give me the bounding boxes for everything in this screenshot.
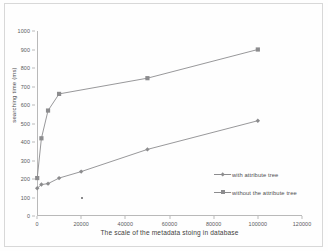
- y-tick-label: 900: [21, 47, 30, 53]
- y-tick-mark: [32, 142, 35, 143]
- y-tick-mark: [32, 123, 35, 124]
- y-tick-label: 200: [21, 176, 30, 182]
- y-tick-label: 100: [21, 195, 30, 201]
- y-tick-mark: [32, 160, 35, 161]
- data-point-diamond: [145, 147, 149, 151]
- y-tick-label: 600: [21, 102, 30, 108]
- data-point-square: [46, 108, 50, 112]
- scan-artifact-speck: [81, 197, 83, 199]
- y-tick-mark: [32, 179, 35, 180]
- legend-marker-diamond-icon: [214, 171, 231, 178]
- x-tick-label: 40000: [118, 221, 134, 227]
- x-tick-label: 20000: [73, 221, 89, 227]
- data-point-square: [145, 76, 149, 80]
- series-1: [35, 47, 260, 180]
- series-line: [37, 50, 258, 179]
- data-point-square: [57, 92, 61, 96]
- x-tick-mark: [213, 216, 214, 219]
- y-tick-mark: [32, 68, 35, 69]
- data-point-square: [39, 136, 43, 140]
- y-axis-ticks: 01002003004005006007008009001000: [0, 31, 35, 216]
- y-tick-mark: [32, 31, 35, 32]
- y-tick-label: 500: [21, 121, 30, 127]
- x-tick-label: 120000: [293, 221, 312, 227]
- x-tick-mark: [257, 216, 258, 219]
- x-tick-label: 100000: [249, 221, 268, 227]
- chart-figure: searching time (ms) 01002003004005006007…: [0, 0, 328, 251]
- y-tick-label: 1000: [18, 28, 30, 34]
- data-point-diamond: [256, 119, 260, 123]
- data-point-square: [35, 176, 39, 180]
- x-tick-mark: [81, 216, 82, 219]
- legend-marker-square-icon: [214, 189, 231, 196]
- x-axis-title: The scale of the metadata stoing in data…: [37, 229, 302, 236]
- data-point-diamond: [57, 176, 61, 180]
- data-point-diamond: [79, 169, 83, 173]
- x-tick-mark: [125, 216, 126, 219]
- x-tick-mark: [37, 216, 38, 219]
- chart-legend: with attribute tree without the attribut…: [214, 168, 318, 204]
- x-tick-mark: [169, 216, 170, 219]
- y-tick-label: 300: [21, 158, 30, 164]
- x-tick-label: 80000: [206, 221, 222, 227]
- x-tick-label: 0: [35, 221, 38, 227]
- y-tick-label: 800: [21, 65, 30, 71]
- y-tick-label: 400: [21, 139, 30, 145]
- data-point-diamond: [46, 181, 50, 185]
- x-tick-label: 60000: [162, 221, 178, 227]
- legend-item-without-the-attribute-tree[interactable]: without the attribute tree: [214, 186, 318, 199]
- data-point-square: [256, 47, 260, 51]
- y-tick-mark: [32, 197, 35, 198]
- y-tick-mark: [32, 86, 35, 87]
- legend-label: without the attribute tree: [232, 190, 297, 196]
- legend-item-with-attribute-tree[interactable]: with attribute tree: [214, 168, 318, 181]
- y-tick-mark: [32, 105, 35, 106]
- y-tick-mark: [32, 216, 35, 217]
- y-tick-label: 0: [27, 213, 30, 219]
- x-tick-mark: [302, 216, 303, 219]
- legend-label: with attribute tree: [232, 172, 278, 178]
- y-tick-mark: [32, 49, 35, 50]
- y-tick-label: 700: [21, 84, 30, 90]
